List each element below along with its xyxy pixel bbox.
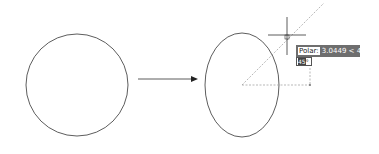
angle-input-value: 45	[298, 58, 306, 65]
tracking-point	[309, 84, 311, 86]
angle-input-suffix: °	[306, 58, 309, 65]
polar-label: Polar:	[298, 47, 320, 55]
angle-input[interactable]: 45°	[296, 57, 312, 66]
polar-value: 3.0449 < 45°	[322, 47, 360, 55]
polar-tooltip: Polar: 3.0449 < 45°	[296, 45, 360, 57]
polar-tracking-lines	[242, 3, 324, 85]
original-circle	[26, 34, 128, 136]
transform-arrow	[138, 76, 198, 82]
drawing-canvas[interactable]	[0, 0, 379, 154]
